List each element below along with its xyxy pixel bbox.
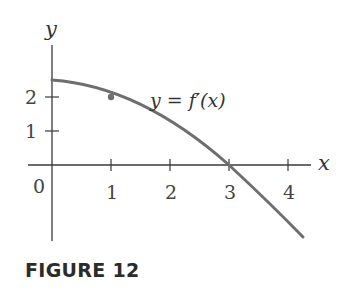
- origin-label: 0: [33, 175, 45, 197]
- x-axis-label: x: [318, 151, 330, 175]
- y-tick-label-2: 2: [25, 86, 37, 108]
- x-tick-label-3: 3: [224, 181, 236, 203]
- chart: y x 0 1 2 3 4 2 1 y = f′(x): [0, 0, 349, 293]
- curve-label: y = f′(x): [149, 89, 226, 111]
- y-axis-label: y: [44, 17, 58, 41]
- figure-caption: FIGURE 12: [25, 259, 139, 281]
- x-tick-label-4: 4: [283, 181, 295, 203]
- y-tick-label-1: 1: [25, 120, 37, 142]
- x-tick-label-1: 1: [106, 181, 118, 203]
- x-tick-label-2: 2: [165, 181, 177, 203]
- highlighted-point: [108, 94, 114, 100]
